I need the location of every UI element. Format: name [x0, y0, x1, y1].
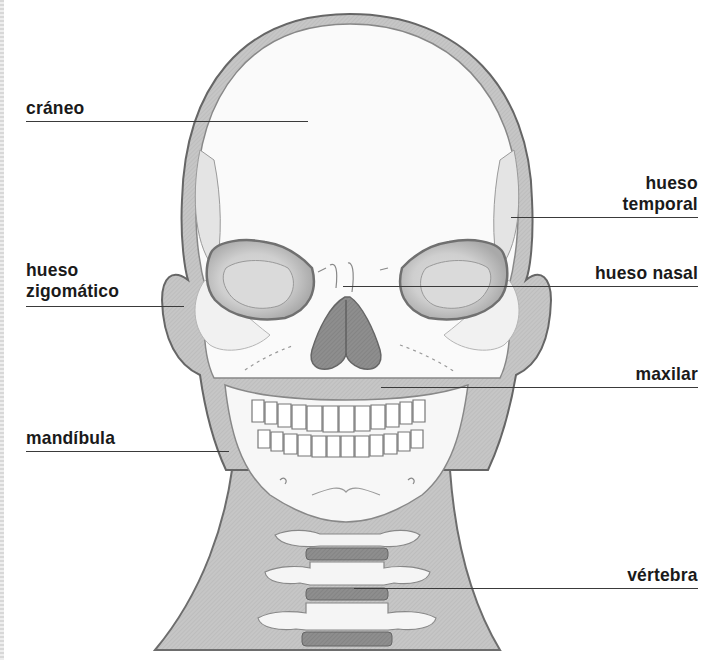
label-text: cráneo — [26, 97, 84, 118]
leader-line-vertebra — [354, 588, 698, 589]
label-text: hueso — [623, 172, 698, 193]
label-text: temporal — [623, 193, 698, 214]
label-text: mandíbula — [26, 427, 115, 448]
leader-line-maxilar — [381, 387, 698, 388]
skull-diagram: cráneo hueso zigomático mandíbula hueso … — [0, 0, 719, 660]
leader-line-craneo — [26, 121, 308, 122]
label-craneo: cráneo — [26, 97, 84, 118]
skull-illustration — [0, 0, 719, 660]
leader-line-hueso-nasal — [343, 286, 698, 287]
label-hueso-nasal: hueso nasal — [595, 262, 698, 283]
label-text: zigomático — [26, 280, 119, 301]
leader-line-mandibula — [26, 451, 229, 452]
label-hueso-temporal: hueso temporal — [623, 172, 698, 214]
label-text: hueso — [26, 259, 119, 280]
leader-line-hueso-zigomatico — [26, 306, 184, 307]
label-text: maxilar — [635, 363, 698, 384]
label-hueso-zigomatico: hueso zigomático — [26, 259, 119, 301]
label-maxilar: maxilar — [635, 363, 698, 384]
label-mandibula: mandíbula — [26, 427, 115, 448]
label-vertebra: vértebra — [628, 564, 698, 585]
label-text: vértebra — [628, 564, 698, 585]
leader-line-hueso-temporal — [511, 217, 698, 218]
label-text: hueso nasal — [595, 262, 698, 283]
